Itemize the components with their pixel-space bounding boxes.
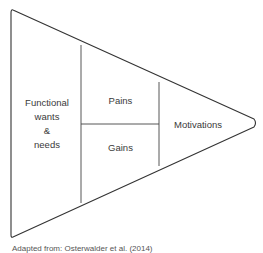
label-motivations: Motivations xyxy=(163,118,233,132)
label-line: needs xyxy=(14,138,80,152)
label-pains: Pains xyxy=(82,94,159,108)
caption: Adapted from: Osterwalder et al. (2014) xyxy=(12,244,153,253)
label-functional-wants-needs: Functional wants & needs xyxy=(14,96,80,152)
label-line: & xyxy=(14,124,80,138)
label-line: wants xyxy=(14,110,80,124)
label-gains: Gains xyxy=(82,141,159,155)
label-line: Functional xyxy=(14,96,80,110)
